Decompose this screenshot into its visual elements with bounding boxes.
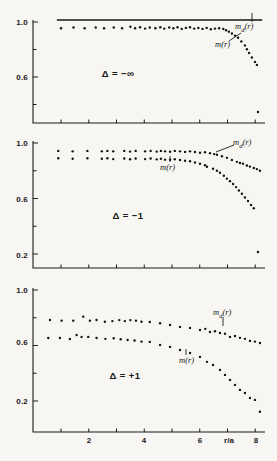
p3-xtick-label-4: 4	[137, 436, 151, 445]
p1-md-tail: (r)	[244, 21, 253, 31]
p3-ytick-label-1.0: 1.0	[6, 286, 28, 295]
p1-ytick-label-0.6: 0.6	[6, 73, 28, 82]
p2-md-tail: (r)	[242, 137, 251, 147]
p3-md-tail: (r)	[222, 307, 231, 317]
p3-md-series-label: md(r)	[213, 308, 231, 320]
p3-xtick-label-6: 6	[193, 436, 207, 445]
p2-delta-annotation: Δ = −1	[98, 210, 158, 221]
x-axis-title: r/a	[219, 436, 239, 445]
p2-ytick-label-0.2: 0.2	[6, 251, 28, 260]
p3-xtick-label-8: 8	[249, 436, 263, 445]
p1-md-series-label: md(r)	[235, 22, 253, 34]
p3-ytick-label-0.2: 0.2	[6, 397, 28, 406]
p1-ytick-label-1.0: 1.0	[6, 18, 28, 27]
p2-m-series-label: m(r)	[160, 163, 175, 172]
p3-m-series-label: m(r)	[179, 356, 194, 365]
p2-ytick-label-1.0: 1.0	[6, 139, 28, 148]
figure-three-panel-plot: 1.0 0.6 Δ = −∞ md(r) m(r) 1.0 0.6 0.2 Δ …	[0, 0, 277, 461]
p2-ytick-label-0.6: 0.6	[6, 195, 28, 204]
p1-m-series-label: m(r)	[215, 40, 230, 49]
p2-md-series-label: md(r)	[233, 138, 251, 150]
p3-ytick-label-0.6: 0.6	[6, 338, 28, 347]
p1-delta-annotation: Δ = −∞	[87, 68, 149, 79]
p3-delta-annotation: Δ = +1	[95, 370, 155, 381]
p3-xtick-label-2: 2	[82, 436, 96, 445]
